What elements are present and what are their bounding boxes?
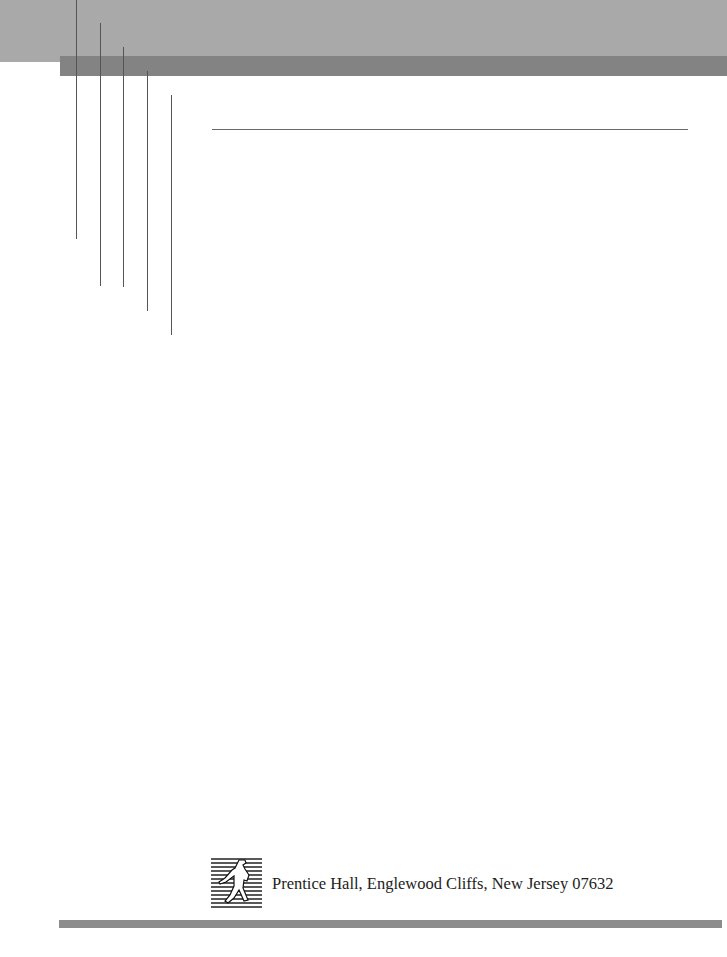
decorative-vertical-line-3 — [123, 47, 124, 287]
decorative-vertical-line-5 — [171, 95, 172, 335]
decorative-vertical-line-2 — [100, 23, 101, 286]
prentice-hall-logo-icon — [211, 857, 262, 909]
decorative-vertical-line-1 — [76, 0, 77, 239]
dark-header-band — [60, 56, 727, 76]
top-gray-band — [0, 0, 727, 62]
decorative-vertical-line-4 — [147, 71, 148, 311]
publisher-address: Prentice Hall, Englewood Cliffs, New Jer… — [272, 874, 614, 894]
bottom-gray-band — [59, 920, 722, 928]
horizontal-rule — [212, 129, 688, 130]
